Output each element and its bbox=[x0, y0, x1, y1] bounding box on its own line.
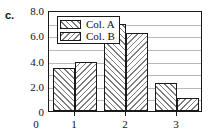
x-tick-label: 3 bbox=[173, 118, 179, 130]
x-tick-label: 2 bbox=[122, 118, 128, 130]
legend-label-col-b: Col. B bbox=[86, 31, 115, 42]
x-tick-label: 1 bbox=[71, 118, 77, 130]
bar-colb-group-3 bbox=[177, 98, 199, 111]
legend-item-col-a: Col. A bbox=[60, 18, 115, 30]
x-tick-mark bbox=[74, 112, 75, 116]
x-tick-mark bbox=[125, 112, 126, 116]
legend-label-col-a: Col. A bbox=[86, 19, 115, 30]
y-tick-label: 2.0 bbox=[30, 81, 44, 93]
legend-swatch-col-a bbox=[60, 20, 81, 29]
bar-cola-group-1 bbox=[53, 68, 75, 111]
x-axis: 0123 bbox=[0, 112, 220, 136]
plot-area: Col. A Col. B bbox=[48, 11, 202, 112]
y-tick-label: 8.0 bbox=[30, 5, 44, 17]
y-tick-label: 4.0 bbox=[30, 56, 44, 68]
x-tick-mark bbox=[176, 112, 177, 116]
y-tick-label: 6.0 bbox=[30, 30, 44, 42]
legend-swatch-col-b bbox=[60, 32, 81, 41]
bar-cola-group-3 bbox=[155, 83, 177, 111]
bar-colb-group-1 bbox=[75, 62, 97, 111]
legend-item-col-b: Col. B bbox=[60, 30, 115, 42]
bar-chart-figure: c. 02.04.06.08.0 Col. A Col. B 0123 bbox=[0, 0, 220, 136]
legend: Col. A Col. B bbox=[57, 16, 120, 44]
bar-colb-group-2 bbox=[126, 33, 148, 111]
x-tick-label: 0 bbox=[33, 118, 39, 130]
